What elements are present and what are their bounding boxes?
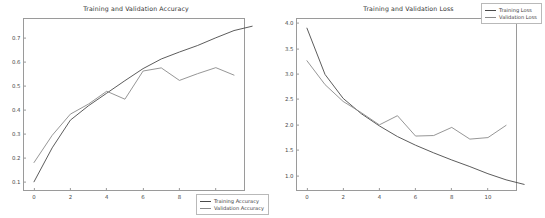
y-axis-tick-mark	[24, 110, 26, 111]
accuracy-chart-title: Training and Validation Accuracy	[0, 5, 272, 12]
x-axis-tick-mark	[488, 188, 489, 190]
loss-legend: Training Loss Validation Loss	[481, 3, 542, 24]
x-axis-tick-mark	[70, 188, 71, 190]
y-axis-tick-mark	[297, 48, 299, 49]
matplotlib-figure: Training and Validation Accuracy 0.10.20…	[0, 0, 545, 218]
x-axis-tick-label: 8	[178, 190, 181, 200]
legend-label: Training Accuracy	[214, 198, 259, 205]
x-axis-tick-mark	[379, 188, 380, 190]
y-axis-tick-mark	[24, 61, 26, 62]
accuracy-plot-area: 0.10.20.30.40.50.60.70246810	[23, 18, 245, 191]
y-axis-tick-label: 0.7	[12, 35, 24, 41]
y-axis-tick-label: 0.5	[12, 83, 24, 89]
legend-item-validation-accuracy: Validation Accuracy	[200, 205, 264, 212]
x-axis-tick-mark	[106, 188, 107, 190]
x-axis-tick-mark	[34, 188, 35, 190]
y-axis-tick-mark	[24, 86, 26, 87]
x-axis-tick-label: 0	[305, 190, 308, 200]
y-axis-tick-mark	[297, 74, 299, 75]
x-axis-tick-mark	[143, 188, 144, 190]
x-axis-tick-label: 2	[341, 190, 344, 200]
y-axis-tick-label: 2.0	[285, 122, 297, 128]
series-line	[34, 68, 234, 163]
y-axis-tick-mark	[24, 158, 26, 159]
y-axis-tick-mark	[297, 175, 299, 176]
y-axis-tick-mark	[297, 150, 299, 151]
y-axis-tick-mark	[297, 99, 299, 100]
line-swatch-icon	[485, 17, 496, 18]
x-axis-tick-mark	[179, 188, 180, 190]
y-axis-tick-label: 0.6	[12, 59, 24, 65]
x-axis-tick-label: 8	[450, 190, 453, 200]
series-line	[34, 26, 252, 182]
line-swatch-icon	[200, 201, 211, 202]
loss-series-lines	[297, 19, 516, 190]
y-axis-tick-label: 1.0	[285, 173, 297, 179]
x-axis-tick-label: 4	[105, 190, 108, 200]
y-axis-tick-mark	[24, 134, 26, 135]
loss-chart-panel: Training and Validation Loss 1.01.52.02.…	[272, 0, 545, 218]
y-axis-tick-mark	[24, 37, 26, 38]
y-axis-tick-mark	[297, 124, 299, 125]
legend-label: Training Loss	[499, 7, 532, 14]
y-axis-tick-label: 0.4	[12, 107, 24, 113]
y-axis-tick-label: 0.2	[12, 155, 24, 161]
series-line	[307, 61, 506, 139]
accuracy-series-lines	[24, 19, 244, 190]
y-axis-tick-label: 3.5	[285, 46, 297, 52]
line-swatch-icon	[485, 10, 496, 11]
legend-item-training-accuracy: Training Accuracy	[200, 198, 264, 205]
y-axis-tick-label: 0.3	[12, 131, 24, 137]
x-axis-tick-mark	[215, 188, 216, 190]
x-axis-tick-label: 4	[378, 190, 381, 200]
legend-label: Validation Accuracy	[214, 205, 264, 212]
accuracy-legend: Training Accuracy Validation Accuracy	[196, 194, 269, 215]
x-axis-tick-label: 0	[32, 190, 35, 200]
y-axis-tick-mark	[297, 23, 299, 24]
x-axis-tick-label: 6	[414, 190, 417, 200]
x-axis-tick-label: 10	[485, 190, 492, 200]
y-axis-tick-mark	[24, 182, 26, 183]
y-axis-tick-label: 4.0	[285, 20, 297, 26]
loss-plot-area: 1.01.52.02.53.03.54.00246810	[296, 18, 517, 191]
legend-item-training-loss: Training Loss	[485, 7, 537, 14]
y-axis-tick-label: 2.5	[285, 96, 297, 102]
accuracy-chart-panel: Training and Validation Accuracy 0.10.20…	[0, 0, 272, 218]
y-axis-tick-label: 1.5	[285, 147, 297, 153]
y-axis-tick-label: 3.0	[285, 71, 297, 77]
x-axis-tick-label: 2	[69, 190, 72, 200]
x-axis-tick-mark	[307, 188, 308, 190]
y-axis-tick-label: 0.1	[12, 179, 24, 185]
x-axis-tick-label: 6	[141, 190, 144, 200]
series-line	[307, 28, 524, 184]
x-axis-tick-mark	[343, 188, 344, 190]
legend-label: Validation Loss	[499, 14, 537, 21]
line-swatch-icon	[200, 208, 211, 209]
x-axis-tick-mark	[415, 188, 416, 190]
x-axis-tick-mark	[451, 188, 452, 190]
legend-item-validation-loss: Validation Loss	[485, 14, 537, 21]
